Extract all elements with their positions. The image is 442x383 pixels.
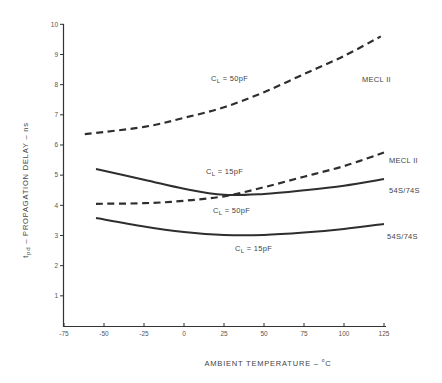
annotation-cl-50pf-lower: CL = 50pF (213, 206, 250, 216)
annotation-cl-15pf-lower: CL = 15pF (235, 244, 272, 254)
x-tick-label: 125 (379, 330, 390, 337)
axes: 12345678910 -75-50-250255075100125 (51, 21, 390, 337)
x-tick-label: -25 (139, 330, 149, 337)
x-tick-label: -50 (99, 330, 109, 337)
annotation-54s-74s-lower: 54S/74S (387, 232, 418, 241)
x-tick-label: 0 (182, 330, 186, 337)
propagation-delay-chart: 12345678910 -75-50-250255075100125 CL = … (0, 0, 442, 383)
y-tick-label: 10 (51, 21, 59, 28)
x-tick-label: 75 (300, 330, 308, 337)
y-tick-label: 1 (54, 292, 58, 299)
y-axis-title: tpd – PROPAGATION DELAY – ns (21, 122, 31, 258)
annotation-mecl-ii-upper: MECL II (362, 75, 391, 84)
y-ticks: 12345678910 (51, 21, 64, 300)
annotation-cl-15pf-54s: CL = 15pF (206, 167, 243, 177)
x-axis-title: AMBIENT TEMPERATURE – oC (204, 357, 331, 368)
y-tick-label: 7 (54, 111, 58, 118)
annotation-mecl-ii-lower: MECL II (389, 156, 418, 165)
annotation-cl-50pf-mecl: CL = 50pF (211, 74, 248, 84)
x-tick-label: 25 (220, 330, 228, 337)
x-ticks: -75-50-250255075100125 (59, 323, 390, 337)
series-line-0 (85, 36, 381, 134)
y-tick-label: 8 (54, 81, 58, 88)
y-tick-label: 3 (54, 232, 58, 239)
x-tick-label: 50 (260, 330, 268, 337)
y-tick-label: 4 (54, 202, 58, 209)
y-tick-label: 6 (54, 141, 58, 148)
series-line-3 (96, 218, 384, 235)
x-tick-label: -75 (59, 330, 69, 337)
y-tick-label: 2 (54, 262, 58, 269)
y-tick-label: 9 (54, 51, 58, 58)
annotation-54s-74s-upper: 54S/74S (389, 186, 420, 195)
x-tick-label: 100 (339, 330, 350, 337)
y-tick-label: 5 (54, 171, 58, 178)
